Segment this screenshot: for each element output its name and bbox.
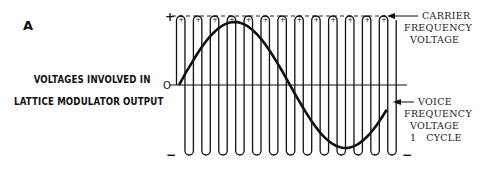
plus-marker: + [297, 16, 303, 24]
voice-label-2: FREQUENCY [404, 108, 472, 119]
modulation-diagram: + O − − +++++++++++++ CARRIER FREQUENCY … [0, 0, 484, 169]
arrow-icon [387, 13, 395, 19]
minus-symbol: − [166, 148, 176, 162]
plus-marker: + [195, 16, 201, 24]
zero-symbol: O [163, 80, 171, 91]
carrier-label-3: VOLTAGE [409, 34, 459, 45]
voice-label-4: 1 CYCLE [410, 132, 462, 143]
carrier-plus-markers: +++++++++++++ [178, 16, 387, 24]
voice-label-3: VOLTAGE [409, 120, 459, 131]
plus-marker: + [364, 16, 370, 24]
plus-marker: + [313, 16, 319, 24]
plus-marker: + [381, 16, 387, 24]
plus-marker: + [347, 16, 353, 24]
plus-marker: + [246, 16, 252, 24]
plus-marker: + [212, 16, 218, 24]
plus-marker: + [178, 16, 184, 24]
minus-symbol-right: − [402, 148, 412, 162]
plus-marker: + [263, 16, 269, 24]
carrier-label-2: FREQUENCY [404, 22, 472, 33]
plus-marker: + [280, 16, 286, 24]
plus-marker: + [330, 16, 336, 24]
carrier-label-1: CARRIER [422, 10, 471, 21]
voice-label-1: VOICE [417, 96, 452, 107]
plus-symbol: + [165, 10, 175, 24]
arrow-icon [393, 99, 401, 105]
